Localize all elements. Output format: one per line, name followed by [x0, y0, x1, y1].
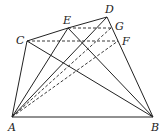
segment-CB	[27, 41, 153, 117]
label-E: E	[62, 14, 71, 27]
segment-CE	[27, 28, 68, 41]
segment-DB	[107, 17, 153, 117]
geometry-diagram: A B C D E F G	[0, 0, 165, 138]
label-D: D	[104, 3, 114, 16]
label-C: C	[16, 34, 25, 47]
label-F: F	[121, 35, 130, 48]
label-A: A	[7, 121, 16, 134]
dashed-segments	[12, 28, 118, 117]
segment-EB	[68, 28, 153, 117]
point-labels: A B C D E F G	[7, 3, 159, 134]
label-G: G	[115, 20, 124, 33]
label-B: B	[150, 121, 159, 134]
segment-AD	[12, 17, 107, 117]
segment-AF	[12, 41, 118, 117]
